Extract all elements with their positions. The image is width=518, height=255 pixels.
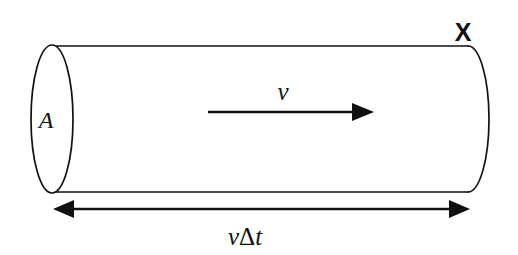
length-dimension-arrow: [53, 200, 470, 218]
cylinder-body: [34, 46, 489, 192]
figure-root: A v X vΔt: [0, 0, 518, 255]
length-delta-symbol: Δ: [239, 223, 255, 250]
cylinder-flow-diagram: A v X vΔt: [0, 0, 518, 255]
length-label-group: vΔt: [228, 223, 263, 250]
length-time-symbol: t: [255, 223, 263, 250]
length-label: vΔt: [228, 223, 263, 250]
surface-label: X: [455, 18, 472, 46]
dimension-arrow-head-left: [53, 200, 74, 218]
velocity-label: v: [277, 78, 289, 105]
area-label: A: [37, 107, 54, 133]
dimension-arrow-head-right: [449, 200, 470, 218]
cylinder-body-fill: [34, 46, 489, 192]
